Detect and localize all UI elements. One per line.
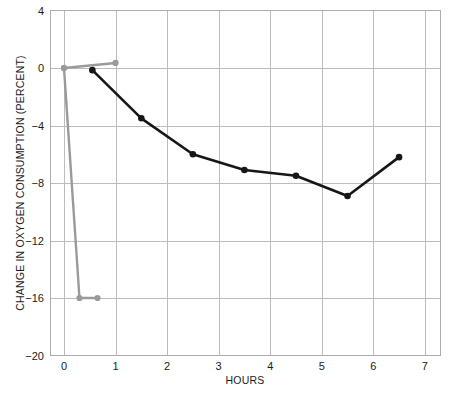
- data-point: [89, 67, 96, 74]
- x-tick-label: 0: [61, 360, 67, 372]
- y-tick-label: 0: [38, 62, 44, 74]
- data-point: [293, 173, 300, 180]
- y-tick-label: −16: [25, 292, 44, 304]
- x-tick-label: 3: [216, 360, 222, 372]
- x-tick-label: 5: [319, 360, 325, 372]
- x-axis-title: HOURS: [226, 374, 265, 386]
- x-tick-label: 7: [422, 360, 428, 372]
- x-tick-label: 1: [112, 360, 118, 372]
- data-point: [190, 151, 197, 158]
- oxygen-consumption-line-chart: 01234567 40−4−8−12−16−20 HOURS CHANGE IN…: [0, 0, 459, 403]
- x-tick-label: 2: [164, 360, 170, 372]
- y-tick-label: −12: [25, 235, 44, 247]
- data-point: [396, 154, 403, 161]
- y-tick-label: −20: [25, 350, 44, 362]
- x-tick-label: 6: [370, 360, 376, 372]
- data-point: [61, 65, 67, 71]
- y-tick-label: −8: [31, 177, 44, 189]
- y-tick-label: 4: [38, 5, 44, 17]
- x-tick-label: 4: [267, 360, 273, 372]
- data-point: [241, 167, 248, 174]
- data-point: [138, 115, 145, 122]
- chart-figure: 01234567 40−4−8−12−16−20 HOURS CHANGE IN…: [0, 0, 459, 403]
- y-axis-title: CHANGE IN OXYGEN CONSUMPTION (PERCENT): [14, 55, 26, 311]
- data-point: [344, 193, 351, 200]
- data-point: [76, 295, 82, 301]
- chart-background: [0, 0, 459, 403]
- data-point: [94, 295, 100, 301]
- data-point: [112, 60, 118, 66]
- y-tick-label: −4: [31, 120, 44, 132]
